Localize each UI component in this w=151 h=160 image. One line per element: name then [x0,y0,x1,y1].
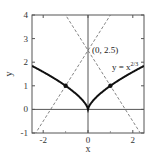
chart: -202-101234 x y (0, 2.5) y = x2/3 [0,0,151,160]
curve-label-base: y = x [112,62,131,72]
y-tick-label: 2 [24,57,29,67]
y-tick-label: 4 [24,10,29,20]
y-tick-label: -1 [21,128,29,138]
x-tick-label: 2 [131,135,136,145]
curve-label-exponent: 2/3 [131,61,139,67]
y-tick-label: 3 [24,34,29,44]
tick-labels: -202-101234 [21,10,136,145]
y-axis-title: y [3,72,14,77]
point-marker [63,84,67,88]
point-annotation: (0, 2.5) [92,45,118,55]
point-marker [108,84,112,88]
x-axis-title: x [86,143,91,154]
x-tick-label: -2 [39,135,47,145]
y-tick-label: 0 [24,104,29,114]
y-tick-label: 1 [24,81,29,91]
